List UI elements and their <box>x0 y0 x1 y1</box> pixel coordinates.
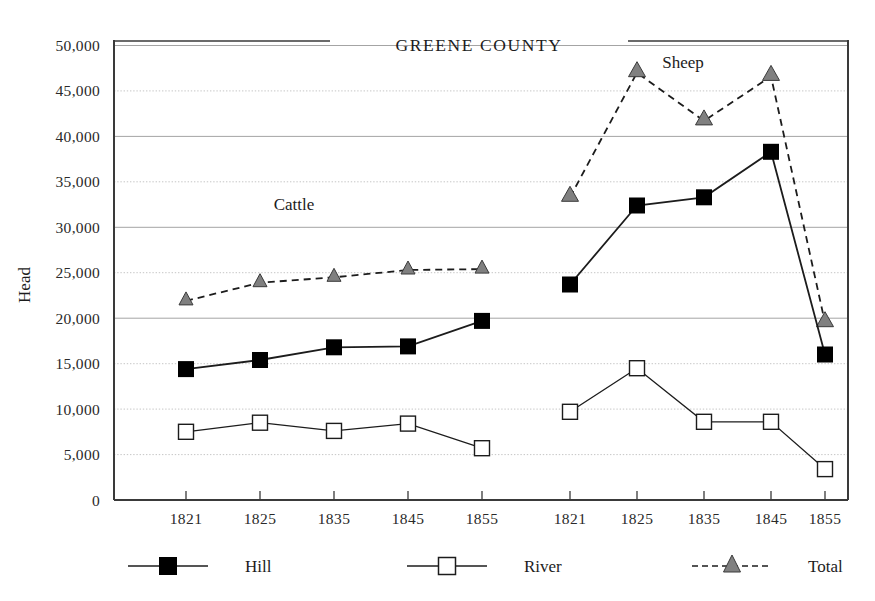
series-sheep-river <box>563 361 833 477</box>
x-tick-label: 1845 <box>392 510 425 527</box>
x-tick-label: 1825 <box>621 510 654 527</box>
x-axis-labels-sheep: 1821 1825 1835 1845 1855 <box>554 510 842 527</box>
y-tick-label: 45,000 <box>56 82 100 99</box>
x-tick-label: 1835 <box>318 510 351 527</box>
series-sheep-hill <box>562 144 833 363</box>
series-cattle-total <box>179 260 489 305</box>
legend-item-river[interactable]: River <box>407 557 562 576</box>
page-title: GREENE COUNTY <box>395 35 562 55</box>
legend: Hill River Total <box>128 555 843 576</box>
legend-label-total: Total <box>808 557 843 576</box>
panel-label-cattle: Cattle <box>274 195 315 214</box>
panel-label-sheep: Sheep <box>662 53 704 72</box>
y-tick-label: 50,000 <box>56 37 100 54</box>
x-tick-label: 1821 <box>170 510 203 527</box>
greene-county-livestock-chart: GREENE COUNTY Head 50,000 45,000 40,000 … <box>0 0 875 601</box>
y-axis-title: Head <box>15 267 34 303</box>
y-axis-ticks: 50,000 45,000 40,000 35,000 30,000 25,00… <box>56 37 100 509</box>
y-tick-label: 20,000 <box>56 310 100 327</box>
gridlines <box>114 46 848 455</box>
x-tick-label: 1855 <box>466 510 499 527</box>
chart-figure: GREENE COUNTY Head 50,000 45,000 40,000 … <box>0 0 875 601</box>
open-square-icon <box>439 558 456 575</box>
series-cattle-hill <box>178 313 490 377</box>
x-axis-labels-cattle: 1821 1825 1835 1845 1855 <box>170 510 499 527</box>
y-tick-label: 10,000 <box>56 401 100 418</box>
y-tick-label: 35,000 <box>56 173 100 190</box>
legend-label-hill: Hill <box>245 557 272 576</box>
x-tick-label: 1821 <box>554 510 587 527</box>
legend-label-river: River <box>524 557 562 576</box>
y-tick-label: 40,000 <box>56 128 100 145</box>
y-tick-label: 15,000 <box>56 355 100 372</box>
x-tick-label: 1825 <box>244 510 277 527</box>
y-tick-label: 0 <box>92 492 100 509</box>
legend-item-total[interactable]: Total <box>692 555 843 576</box>
x-tick-label: 1855 <box>809 510 842 527</box>
x-tick-label: 1835 <box>688 510 721 527</box>
filled-square-icon <box>159 557 177 575</box>
y-tick-label: 30,000 <box>56 219 100 236</box>
y-tick-label: 25,000 <box>56 264 100 281</box>
x-tick-label: 1845 <box>755 510 788 527</box>
series-cattle-river <box>179 415 490 456</box>
y-tick-label: 5,000 <box>64 446 100 463</box>
legend-item-hill[interactable]: Hill <box>128 557 272 576</box>
filled-triangle-icon <box>724 555 741 572</box>
x-axis-ticks <box>186 491 825 500</box>
